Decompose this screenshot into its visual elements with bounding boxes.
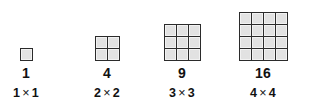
cell-count-label: 16 (255, 66, 271, 80)
unit-cell (108, 37, 119, 48)
unit-cell (177, 49, 188, 60)
multiplication-sign-icon: × (257, 86, 269, 100)
unit-cell (177, 25, 188, 36)
unit-square-grid (95, 36, 120, 61)
unit-cell (21, 49, 32, 60)
square-number-column-2: 4 2×2 (72, 10, 142, 100)
dimension-cols: 2 (113, 86, 120, 100)
multiplication-sign-icon: × (176, 86, 188, 100)
multiplication-sign-icon: × (20, 86, 32, 100)
unit-cell (276, 37, 287, 48)
square-numbers-figure: 1 1×1 4 2×2 9 3×3 16 4×4 (0, 0, 313, 99)
unit-cell (165, 37, 176, 48)
square-array-3 (164, 10, 201, 61)
unit-cell (108, 49, 119, 60)
square-array-2 (95, 10, 120, 61)
dimension-cols: 3 (188, 86, 195, 100)
unit-cell (177, 37, 188, 48)
unit-cell (252, 37, 263, 48)
unit-cell (165, 49, 176, 60)
unit-cell (264, 49, 275, 60)
unit-cell (252, 49, 263, 60)
dimension-cols: 1 (32, 86, 39, 100)
multiplication-sign-icon: × (101, 86, 113, 100)
square-number-column-3: 9 3×3 (146, 10, 218, 100)
unit-cell (276, 25, 287, 36)
square-number-column-1: 1 1×1 (0, 10, 52, 100)
unit-cell (240, 37, 251, 48)
dimension-cols: 4 (269, 86, 276, 100)
dimensions-label: 4×4 (250, 87, 276, 100)
cell-count-label: 4 (103, 66, 111, 80)
unit-cell (189, 37, 200, 48)
unit-cell (96, 37, 107, 48)
cell-count-label: 1 (22, 66, 30, 80)
unit-cell (252, 13, 263, 24)
unit-cell (189, 25, 200, 36)
square-array-1 (20, 10, 33, 61)
dimensions-label: 2×2 (94, 87, 120, 100)
unit-cell (276, 13, 287, 24)
unit-cell (240, 49, 251, 60)
unit-cell (276, 49, 287, 60)
dimensions-label: 1×1 (13, 87, 39, 100)
unit-cell (240, 13, 251, 24)
unit-square-grid (164, 24, 201, 61)
square-array-4 (239, 10, 288, 61)
unit-cell (96, 49, 107, 60)
unit-cell (189, 49, 200, 60)
unit-cell (240, 25, 251, 36)
unit-square-grid (20, 48, 33, 61)
cell-count-label: 9 (178, 66, 186, 80)
unit-cell (264, 13, 275, 24)
unit-cell (165, 25, 176, 36)
unit-cell (264, 25, 275, 36)
unit-cell (252, 25, 263, 36)
unit-cell (264, 37, 275, 48)
unit-square-grid (239, 12, 288, 61)
square-number-column-4: 16 4×4 (222, 10, 304, 100)
dimensions-label: 3×3 (169, 87, 195, 100)
